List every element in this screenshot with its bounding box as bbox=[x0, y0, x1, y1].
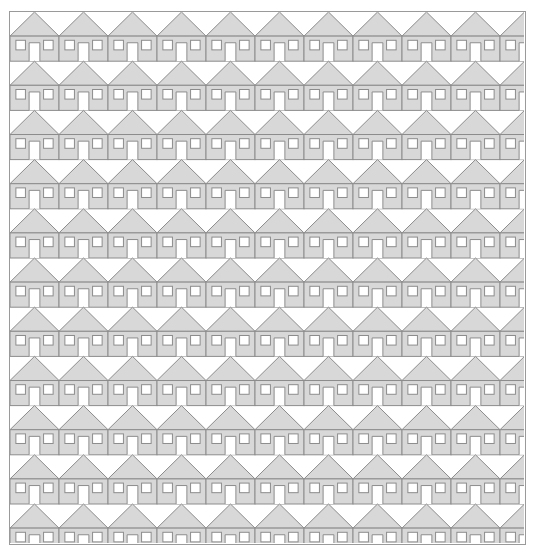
roof-triangle bbox=[10, 455, 59, 479]
window-right bbox=[240, 483, 250, 493]
window-right bbox=[142, 385, 152, 395]
window-left bbox=[16, 335, 26, 345]
door-fill bbox=[127, 141, 138, 159]
roof-triangle bbox=[59, 258, 108, 282]
window-right bbox=[142, 434, 152, 444]
house-motif bbox=[10, 258, 59, 307]
window-left bbox=[261, 483, 271, 493]
window-left bbox=[65, 385, 75, 395]
window-left bbox=[261, 286, 271, 296]
window-left bbox=[261, 434, 271, 444]
window-right bbox=[240, 434, 250, 444]
house-motif bbox=[206, 307, 255, 356]
window-left bbox=[163, 532, 173, 542]
window-left bbox=[212, 385, 222, 395]
house-motif bbox=[10, 504, 59, 543]
house-motif bbox=[10, 356, 59, 405]
window-left bbox=[261, 139, 271, 149]
house-motif bbox=[108, 160, 157, 209]
house-motif bbox=[108, 209, 157, 258]
window-left bbox=[457, 335, 467, 345]
house-motif bbox=[402, 356, 451, 405]
door-fill bbox=[372, 486, 383, 504]
door-fill bbox=[127, 387, 138, 405]
roof-triangle bbox=[108, 307, 157, 331]
window-right bbox=[289, 237, 299, 247]
house-motif bbox=[402, 12, 451, 61]
door-fill bbox=[470, 289, 481, 307]
house-motif bbox=[157, 356, 206, 405]
window-right bbox=[436, 483, 446, 493]
door-fill bbox=[470, 141, 481, 159]
house-motif bbox=[500, 12, 524, 61]
door-fill bbox=[29, 92, 40, 110]
roof-triangle bbox=[451, 61, 500, 85]
window-left bbox=[163, 139, 173, 149]
roof-triangle bbox=[10, 504, 59, 528]
roof-triangle bbox=[304, 61, 353, 85]
house-motif bbox=[206, 455, 255, 504]
window-right bbox=[289, 89, 299, 99]
door-fill bbox=[274, 486, 285, 504]
window-left bbox=[457, 89, 467, 99]
window-left bbox=[359, 139, 369, 149]
door-fill bbox=[127, 92, 138, 110]
house-motif bbox=[353, 209, 402, 258]
house-motif bbox=[402, 406, 451, 455]
roof-triangle bbox=[10, 356, 59, 380]
window-left bbox=[212, 237, 222, 247]
roof-triangle bbox=[157, 258, 206, 282]
roof-triangle bbox=[353, 160, 402, 184]
window-left bbox=[408, 532, 418, 542]
door-fill bbox=[225, 190, 236, 208]
window-left bbox=[114, 89, 124, 99]
door-fill bbox=[176, 141, 187, 159]
house-motif bbox=[255, 61, 304, 110]
window-left bbox=[506, 89, 516, 99]
window-right bbox=[191, 237, 201, 247]
window-right bbox=[485, 237, 495, 247]
door-fill bbox=[372, 535, 383, 543]
door-fill bbox=[274, 190, 285, 208]
window-left bbox=[457, 286, 467, 296]
window-right bbox=[485, 483, 495, 493]
window-right bbox=[387, 483, 397, 493]
door-fill bbox=[519, 92, 524, 110]
door-fill bbox=[421, 387, 432, 405]
window-left bbox=[506, 139, 516, 149]
door-fill bbox=[176, 486, 187, 504]
door-fill bbox=[519, 486, 524, 504]
house-motif bbox=[206, 209, 255, 258]
window-right bbox=[289, 335, 299, 345]
window-right bbox=[436, 335, 446, 345]
window-right bbox=[387, 385, 397, 395]
window-right bbox=[387, 237, 397, 247]
door-fill bbox=[176, 43, 187, 61]
house-motif bbox=[108, 61, 157, 110]
door-fill bbox=[519, 387, 524, 405]
house-motif bbox=[206, 406, 255, 455]
window-right bbox=[191, 385, 201, 395]
house-motif bbox=[353, 258, 402, 307]
window-left bbox=[310, 188, 320, 198]
window-left bbox=[457, 385, 467, 395]
window-left bbox=[65, 89, 75, 99]
roof-triangle bbox=[451, 258, 500, 282]
window-right bbox=[289, 483, 299, 493]
house-motif bbox=[255, 12, 304, 61]
window-left bbox=[506, 237, 516, 247]
house-motif bbox=[353, 455, 402, 504]
door-fill bbox=[372, 43, 383, 61]
roof-triangle bbox=[451, 209, 500, 233]
window-left bbox=[163, 483, 173, 493]
door-fill bbox=[176, 535, 187, 543]
house-motif bbox=[451, 258, 500, 307]
door-fill bbox=[127, 338, 138, 356]
window-right bbox=[436, 89, 446, 99]
window-right bbox=[338, 139, 348, 149]
window-right bbox=[436, 188, 446, 198]
window-right bbox=[142, 335, 152, 345]
window-right bbox=[191, 335, 201, 345]
house-motif bbox=[255, 406, 304, 455]
roof-triangle bbox=[451, 356, 500, 380]
